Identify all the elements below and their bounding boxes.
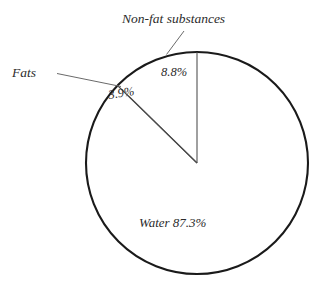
pie-chart-canvas: Non-fat substances 8.8% Fats 3.9% Water … — [0, 0, 335, 287]
pie-chart-figure: Non-fat substances 8.8% Fats 3.9% Water … — [0, 0, 335, 287]
value-label-nonfat: 8.8% — [161, 65, 187, 79]
leader-line-nonfat — [167, 31, 185, 55]
label-fats: Fats — [11, 65, 36, 80]
leader-line-fats — [57, 74, 121, 87]
label-nonfat-substances: Non-fat substances — [121, 11, 225, 26]
label-water: Water 87.3% — [139, 215, 207, 230]
